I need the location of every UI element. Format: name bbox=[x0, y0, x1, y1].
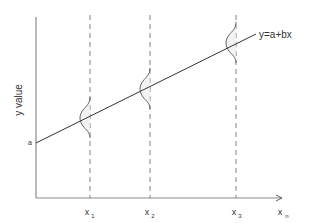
svg-text:x: x bbox=[145, 207, 150, 217]
equation-label: y=a+bx bbox=[259, 29, 292, 40]
svg-text:3: 3 bbox=[238, 213, 242, 219]
regression-line bbox=[36, 34, 256, 143]
svg-text:x: x bbox=[232, 207, 237, 217]
x-tick-label-x3: x 3 bbox=[232, 207, 243, 219]
distribution-curve-x3 bbox=[226, 22, 236, 63]
x-tick-label-x2: x 2 bbox=[145, 207, 156, 219]
x-tick-label-xn: x n bbox=[278, 207, 289, 219]
regression-diagram: y=a+bx a y value x 1 x 2 x 3 x n bbox=[0, 0, 316, 223]
svg-text:x: x bbox=[278, 207, 283, 217]
svg-text:2: 2 bbox=[151, 213, 155, 219]
intercept-label: a bbox=[28, 139, 32, 146]
svg-text:1: 1 bbox=[91, 213, 95, 219]
svg-text:n: n bbox=[285, 213, 288, 219]
y-axis-label: y value bbox=[13, 84, 24, 116]
x-tick-label-x1: x 1 bbox=[85, 207, 96, 219]
svg-text:x: x bbox=[85, 207, 90, 217]
